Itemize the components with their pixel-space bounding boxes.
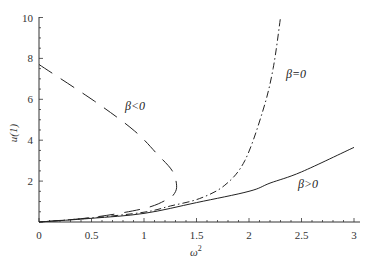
y-tick-label: 10 xyxy=(22,12,34,24)
x-tick-label: 1 xyxy=(141,229,147,241)
label-beta-zero: β=0 xyxy=(285,67,306,81)
x-tick-label: 2 xyxy=(246,229,252,241)
curve-beta-negative xyxy=(39,65,177,223)
label-beta-negative: β<0 xyxy=(124,99,145,113)
curves xyxy=(39,18,354,223)
y-ticks: 246810 xyxy=(22,12,43,223)
x-ticks: 00.511.522.53 xyxy=(36,218,357,241)
axes xyxy=(39,17,360,222)
x-axis-label: ω2 xyxy=(190,244,202,258)
y-axis-label: u(1) xyxy=(7,124,20,143)
x-tick-label: 2.5 xyxy=(295,229,309,241)
y-tick-label: 6 xyxy=(28,93,34,105)
x-tick-label: 0.5 xyxy=(85,229,99,241)
y-tick-label: 4 xyxy=(28,134,34,146)
chart: 00.511.522.53 246810 ω2 u(1) β<0 β=0 β>0 xyxy=(0,0,371,265)
x-tick-label: 0 xyxy=(36,229,42,241)
x-tick-label: 3 xyxy=(351,229,357,241)
x-tick-label: 1.5 xyxy=(190,229,204,241)
y-tick-label: 2 xyxy=(28,175,34,187)
curve-beta-zero xyxy=(39,18,281,223)
label-beta-positive: β>0 xyxy=(297,177,318,191)
y-tick-label: 8 xyxy=(28,52,34,64)
